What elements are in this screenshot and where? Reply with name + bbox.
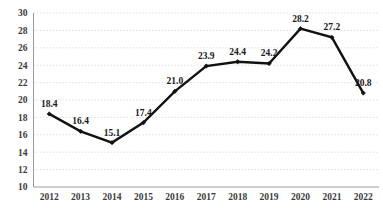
x-tick-label: 2017 (197, 192, 216, 202)
y-tick-label: 10 (18, 182, 28, 192)
x-tick-label: 2020 (291, 192, 310, 202)
y-axis-tick-labels: 3028262422201816141210 (18, 8, 28, 192)
y-tick-label: 26 (18, 43, 28, 53)
data-value-label: 23.9 (198, 51, 215, 61)
x-tick-label: 2013 (71, 192, 90, 202)
series-value-labels: 18.416.415.117.421.023.924.424.228.227.2… (41, 14, 372, 138)
data-value-label: 17.4 (135, 108, 152, 118)
x-tick-label: 2018 (228, 192, 247, 202)
x-tick-label: 2021 (322, 192, 341, 202)
series-markers (47, 26, 365, 144)
x-tick-label: 2014 (103, 192, 122, 202)
data-value-label: 18.4 (41, 99, 58, 109)
x-tick-label: 2019 (260, 192, 279, 202)
series-line (49, 29, 363, 143)
line-chart: 3028262422201816141210 20122013201420152… (0, 0, 383, 208)
y-tick-label: 22 (18, 78, 28, 88)
x-tick-label: 2015 (134, 192, 153, 202)
y-tick-label: 14 (18, 148, 28, 158)
y-tick-label: 30 (18, 8, 28, 18)
x-tick-label: 2012 (40, 192, 59, 202)
data-value-label: 20.8 (355, 78, 372, 88)
y-tick-label: 24 (18, 61, 28, 71)
data-value-label: 24.2 (261, 48, 278, 58)
y-tick-label: 12 (18, 165, 28, 175)
y-tick-label: 18 (18, 113, 28, 123)
x-tick-label: 2022 (354, 192, 373, 202)
y-tick-label: 16 (18, 130, 28, 140)
data-value-label: 28.2 (292, 14, 309, 24)
data-value-label: 24.4 (229, 47, 246, 57)
data-value-label: 21.0 (167, 76, 184, 86)
x-tick-label: 2016 (165, 192, 184, 202)
data-point-marker (235, 60, 239, 64)
data-value-label: 27.2 (324, 22, 341, 32)
chart-plot-area: 3028262422201816141210 20122013201420152… (0, 0, 383, 208)
data-value-label: 16.4 (72, 116, 89, 126)
data-value-label: 15.1 (104, 128, 121, 138)
y-tick-label: 28 (18, 26, 28, 36)
x-axis-tick-labels: 2012201320142015201620172018201920202021… (40, 192, 373, 202)
series-line-group (49, 29, 363, 143)
y-tick-label: 20 (18, 95, 28, 105)
